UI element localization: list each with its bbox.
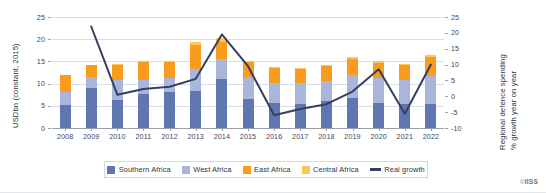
x-tick-mark-2013 bbox=[196, 128, 197, 131]
legend-swatch-icon bbox=[107, 166, 115, 174]
credit-name: IISS bbox=[525, 178, 538, 185]
y-tick-label-left-25: 25 bbox=[23, 13, 45, 22]
y-tick-label-right-0: 0 bbox=[451, 92, 473, 101]
legend-label: Real growth bbox=[384, 165, 425, 174]
x-tick-label-2009: 2009 bbox=[78, 132, 104, 141]
x-tick-label-2017: 2017 bbox=[287, 132, 313, 141]
y-tick-mark-right-10 bbox=[445, 65, 448, 66]
legend-item[interactable]: Central Africa bbox=[302, 165, 359, 174]
y-tick-mark-right-20 bbox=[445, 33, 448, 34]
copyright-credit: ©IISS bbox=[520, 178, 538, 185]
legend-swatch-icon bbox=[182, 166, 190, 174]
legend-label: Southern Africa bbox=[119, 165, 171, 174]
legend-item[interactable]: Southern Africa bbox=[107, 165, 171, 174]
y-tick-label-right-5: 5 bbox=[451, 76, 473, 85]
y-tick-mark-left-20 bbox=[48, 39, 51, 40]
legend-item[interactable]: West Africa bbox=[182, 165, 232, 174]
x-tick-mark-2018 bbox=[326, 128, 327, 131]
y-axis-title-left: USDbn (constant, 2015) bbox=[11, 43, 20, 128]
x-tick-mark-2010 bbox=[117, 128, 118, 131]
x-tick-label-2021: 2021 bbox=[392, 132, 418, 141]
y-tick-label-left-20: 20 bbox=[23, 35, 45, 44]
legend-item[interactable]: East Africa bbox=[243, 165, 291, 174]
y-tick-label-right-15: 15 bbox=[451, 44, 473, 53]
x-tick-label-2014: 2014 bbox=[209, 132, 235, 141]
x-tick-mark-2011 bbox=[143, 128, 144, 131]
x-tick-mark-2014 bbox=[222, 128, 223, 131]
legend-swatch-icon bbox=[243, 166, 251, 174]
y-tick-mark-right-5 bbox=[445, 80, 448, 81]
y-tick-mark-right-0 bbox=[445, 96, 448, 97]
chart-legend: Southern AfricaWest AfricaEast AfricaCen… bbox=[104, 161, 428, 178]
y-tick-mark-left-10 bbox=[48, 84, 51, 85]
x-tick-mark-2012 bbox=[170, 128, 171, 131]
x-tick-label-2008: 2008 bbox=[52, 132, 78, 141]
x-tick-mark-2009 bbox=[91, 128, 92, 131]
y-tick-mark-right-25 bbox=[445, 17, 448, 18]
y-tick-label-left-5: 5 bbox=[23, 101, 45, 110]
plot-area bbox=[52, 17, 444, 128]
y-tick-label-left-10: 10 bbox=[23, 79, 45, 88]
x-tick-mark-2017 bbox=[300, 128, 301, 131]
x-tick-mark-2021 bbox=[405, 128, 406, 131]
y-tick-label-right--10: -10 bbox=[451, 124, 473, 133]
legend-label: East Africa bbox=[254, 165, 290, 174]
legend-line-icon bbox=[370, 168, 381, 170]
y-axis-title-right-line2: % growth year on year bbox=[509, 71, 518, 150]
x-tick-mark-2019 bbox=[353, 128, 354, 131]
real-growth-line-series bbox=[52, 17, 444, 128]
x-tick-label-2016: 2016 bbox=[261, 132, 287, 141]
legend-label: West Africa bbox=[193, 165, 231, 174]
x-tick-mark-2016 bbox=[274, 128, 275, 131]
y-tick-label-left-15: 15 bbox=[23, 57, 45, 66]
legend-item[interactable]: Real growth bbox=[370, 165, 425, 174]
x-tick-mark-2008 bbox=[65, 128, 66, 131]
x-tick-label-2012: 2012 bbox=[157, 132, 183, 141]
y-tick-mark-left-15 bbox=[48, 61, 51, 62]
legend-label: Central Africa bbox=[313, 165, 359, 174]
x-tick-label-2013: 2013 bbox=[183, 132, 209, 141]
y-tick-mark-right-15 bbox=[445, 49, 448, 50]
x-tick-mark-2022 bbox=[431, 128, 432, 131]
x-tick-mark-2020 bbox=[379, 128, 380, 131]
x-tick-label-2019: 2019 bbox=[340, 132, 366, 141]
y-tick-mark-right--10 bbox=[445, 128, 448, 129]
y-tick-mark-right--5 bbox=[445, 112, 448, 113]
x-tick-label-2020: 2020 bbox=[366, 132, 392, 141]
y-tick-mark-left-25 bbox=[48, 17, 51, 18]
x-tick-label-2018: 2018 bbox=[313, 132, 339, 141]
y-tick-mark-left-0 bbox=[48, 128, 51, 129]
y-tick-label-right-10: 10 bbox=[451, 60, 473, 69]
x-tick-mark-2015 bbox=[248, 128, 249, 131]
bottom-divider bbox=[0, 192, 546, 193]
x-tick-label-2015: 2015 bbox=[235, 132, 261, 141]
y-axis-title-right-line1: Regional defence spending bbox=[498, 54, 507, 150]
x-tick-label-2011: 2011 bbox=[130, 132, 156, 141]
y-tick-mark-left-5 bbox=[48, 106, 51, 107]
legend-swatch-icon bbox=[302, 166, 310, 174]
x-tick-label-2010: 2010 bbox=[104, 132, 130, 141]
x-tick-label-2022: 2022 bbox=[418, 132, 444, 141]
y-tick-label-left-0: 0 bbox=[23, 124, 45, 133]
y-tick-label-right-20: 20 bbox=[451, 28, 473, 37]
y-tick-label-right-25: 25 bbox=[451, 13, 473, 22]
y-tick-label-right--5: -5 bbox=[451, 108, 473, 117]
chart-figure: USDbn (constant, 2015) Regional defence … bbox=[0, 0, 546, 193]
